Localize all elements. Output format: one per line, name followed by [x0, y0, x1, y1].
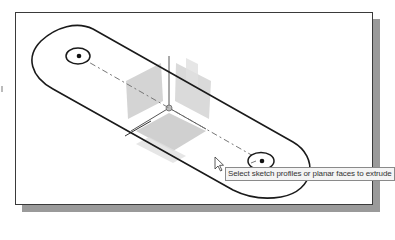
- xy-plane[interactable]: [126, 63, 163, 119]
- tooltip: Select sketch profiles or planar faces t…: [225, 167, 395, 181]
- right-hole-center: [260, 159, 265, 164]
- left-hole-center: [77, 54, 82, 59]
- left-hole[interactable]: [66, 48, 90, 64]
- origin-point[interactable]: [166, 105, 172, 111]
- page-edge-mark: [1, 86, 3, 92]
- arrow-pointer-icon: [215, 157, 224, 171]
